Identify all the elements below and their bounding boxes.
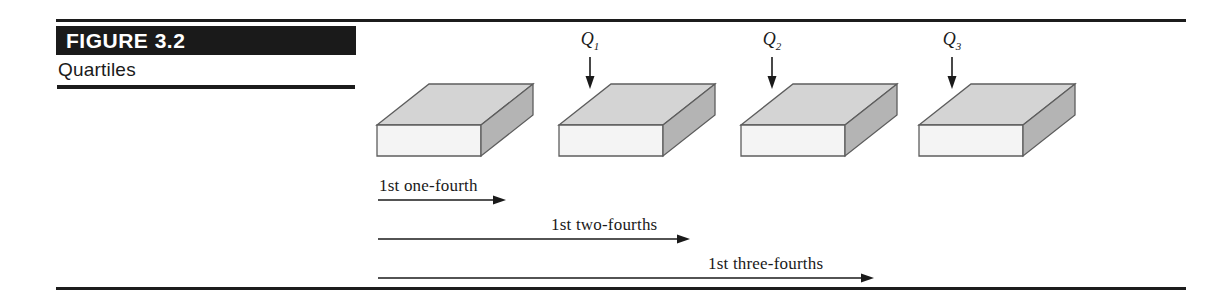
measure-label-one-fourth: 1st one-fourth (379, 176, 478, 196)
quartile-marker-q2: Q2 (752, 30, 792, 93)
measure-arrow-two-fourths (378, 233, 690, 245)
quartile-label-q2: Q2 (752, 30, 792, 52)
figure-number-label: FIGURE 3.2 (66, 29, 185, 53)
quartile-slab-2 (559, 84, 715, 168)
bottom-divider-rule (56, 287, 1186, 290)
quartile-marker-q1: Q1 (570, 30, 610, 93)
down-arrow-icon (932, 57, 972, 93)
down-arrow-icon (570, 57, 610, 93)
quartile-slab-3 (741, 84, 897, 168)
down-arrow-icon (752, 57, 792, 93)
measure-arrow-one-fourth (378, 194, 506, 206)
quartile-slab-4 (919, 84, 1075, 168)
measure-arrow-three-fourths (378, 272, 874, 284)
figure-caption: Quartiles (58, 59, 136, 81)
quartile-label-q3: Q3 (932, 30, 972, 52)
figure-container: FIGURE 3.2 Quartiles Q1 (0, 0, 1205, 300)
top-divider-rule (56, 19, 1186, 22)
measure-label-two-fourths: 1st two-fourths (551, 215, 657, 235)
caption-underline-rule (57, 85, 355, 89)
quartile-slab-1 (377, 84, 533, 168)
figure-number-bar: FIGURE 3.2 (56, 26, 356, 55)
quartile-label-q1: Q1 (570, 30, 610, 52)
measure-label-three-fourths: 1st three-fourths (708, 254, 823, 274)
quartile-marker-q3: Q3 (932, 30, 972, 93)
